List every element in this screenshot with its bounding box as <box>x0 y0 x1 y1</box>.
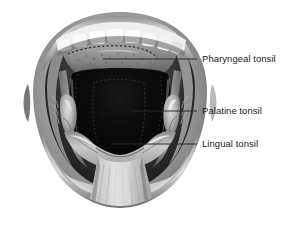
mouth-anatomy-illustration <box>0 0 293 245</box>
label-palatine-tonsil: Palatine tonsil <box>202 105 262 116</box>
illustration-page: Pharyngeal tonsil Palatine tonsil Lingua… <box>0 0 293 245</box>
label-lingual-tonsil: Lingual tonsil <box>202 138 258 149</box>
label-pharyngeal-tonsil: Pharyngeal tonsil <box>202 53 276 64</box>
